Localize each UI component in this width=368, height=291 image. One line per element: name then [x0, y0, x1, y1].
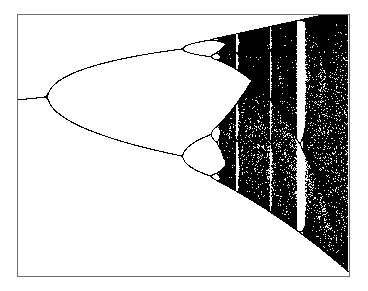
bifurcation-diagram-canvas — [18, 15, 349, 276]
figure — [0, 0, 368, 291]
plot-area — [17, 14, 350, 277]
